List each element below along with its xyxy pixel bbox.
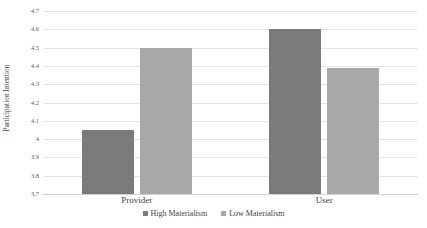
bar [327, 68, 379, 194]
bar [140, 48, 192, 194]
bar [269, 29, 321, 194]
y-axis-tick-label: 3.7 [31, 191, 39, 197]
legend-label: High Materialism [151, 209, 208, 218]
x-axis-category-label: Provider [121, 195, 152, 205]
y-axis-tick-label: 4.1 [31, 118, 39, 124]
y-axis-tick-label: 4 [36, 136, 39, 142]
plot-area: 4.74.64.54.44.34.24.143.93.83.7 [43, 11, 418, 194]
legend-label: Low Materialism [229, 209, 284, 218]
gridline [43, 11, 418, 12]
y-axis-title-label: Participation Intention [3, 65, 11, 132]
y-axis-tick-label: 4.6 [31, 26, 39, 32]
x-axis-category-label: User [316, 195, 333, 205]
y-axis-tick-label: 4.4 [31, 63, 39, 69]
gridline [43, 29, 418, 30]
y-axis-tick-label: 4.2 [31, 99, 39, 105]
legend-swatch-icon [221, 211, 226, 216]
y-axis-title: Participation Intention [0, 0, 14, 196]
gridline [43, 66, 418, 67]
y-axis-tick-label: 4.3 [31, 81, 39, 87]
y-axis-tick-label: 4.7 [31, 8, 39, 14]
y-axis-tick-label: 4.5 [31, 44, 39, 50]
bar-chart: Participation Intention 4.74.64.54.44.34… [0, 0, 427, 228]
legend-swatch-icon [143, 211, 148, 216]
bar [82, 130, 134, 194]
chart-legend: High MaterialismLow Materialism [0, 209, 427, 218]
legend-item[interactable]: Low Materialism [221, 209, 284, 218]
y-axis-tick-label: 3.8 [31, 172, 39, 178]
gridline [43, 48, 418, 49]
legend-item[interactable]: High Materialism [143, 209, 208, 218]
y-axis-tick-label: 3.9 [31, 154, 39, 160]
